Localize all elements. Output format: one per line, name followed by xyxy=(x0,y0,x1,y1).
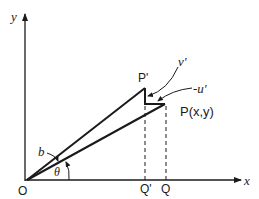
neg-u-prime-label: -u' xyxy=(193,81,207,96)
ray-op xyxy=(27,104,165,180)
q-label: Q xyxy=(161,182,170,196)
v-prime-label: v' xyxy=(178,54,187,69)
x-axis-label: x xyxy=(243,173,250,188)
angle-theta-label: θ xyxy=(54,165,60,179)
p-prime-label: P' xyxy=(138,71,148,85)
angle-b-label: b xyxy=(38,144,45,159)
ray-op-prime xyxy=(27,88,145,180)
q-prime-label: Q' xyxy=(140,182,152,196)
origin-label: O xyxy=(18,184,27,198)
y-axis-label: y xyxy=(9,9,17,24)
v-prime-leader-arrow xyxy=(148,67,178,96)
angle-theta-arc xyxy=(66,162,69,180)
rotation-diagram: y x O P' P(x,y) Q' Q v' -u' b θ xyxy=(0,0,259,199)
u-prime-leader-arrow xyxy=(158,88,192,101)
p-label: P(x,y) xyxy=(180,104,214,119)
